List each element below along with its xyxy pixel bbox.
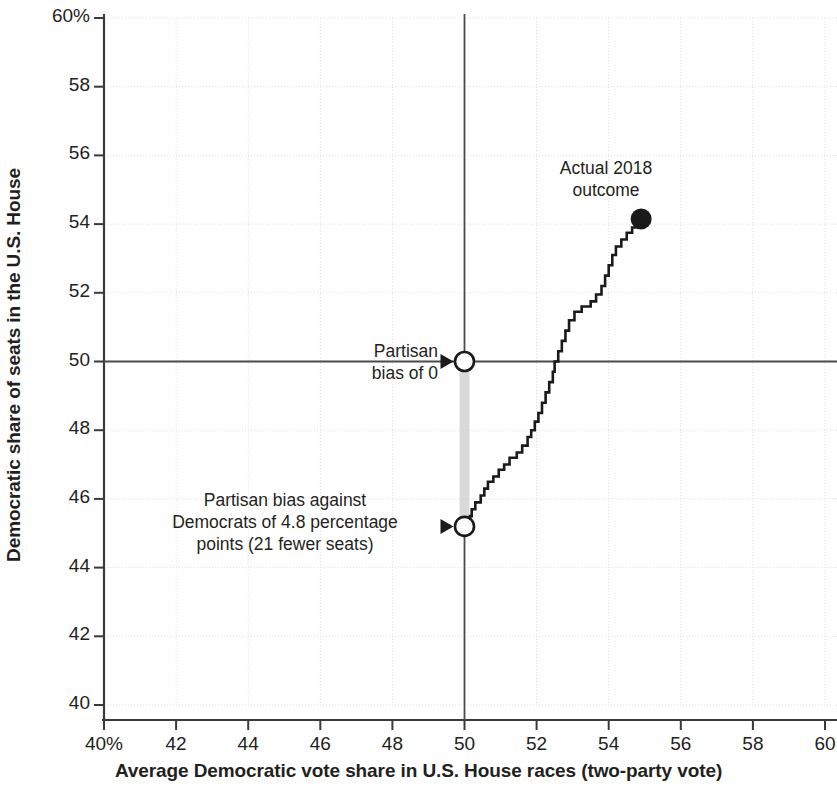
y-tick-label: 40 [28,692,90,714]
x-tick-label: 42 [141,733,211,755]
x-tick-label: 48 [357,733,427,755]
partisan-bias-band [460,362,470,527]
y-tick-label: 42 [28,623,90,645]
y-tick-label: 46 [28,486,90,508]
partisan-bias-band [460,362,470,527]
annotation-bias0-line-2: bias of 0 [258,363,438,385]
x-tick-label: 58 [718,733,788,755]
y-axis-title-text: Democratic share of seats in the U.S. Ho… [3,168,25,562]
pointer-arrow-bias-zero [441,354,454,369]
y-tick-label: 52 [28,280,90,302]
marker-actual-2018-outcome [631,208,652,229]
seats-votes-curve-figure: Democratic share of seats in the U.S. Ho… [0,0,837,791]
x-tick-label: 60 [790,733,837,755]
x-tick-label: 40% [69,733,139,755]
x-tick-label: 50 [430,733,500,755]
y-tick-label: 58 [28,74,90,96]
x-tick-label: 54 [574,733,644,755]
y-tick-label: 50 [28,349,90,371]
x-tick-label: 44 [213,733,283,755]
y-tick-label: 44 [28,555,90,577]
y-tick-label: 54 [28,211,90,233]
y-tick-label: 56 [28,142,90,164]
marker-partisan-bias-against-democrats [455,517,474,536]
y-axis-title: Democratic share of seats in the U.S. Ho… [0,0,28,730]
x-tick-label: 46 [285,733,355,755]
x-tick-label: 56 [646,733,716,755]
annotation-bias48-line-2: Democrats of 4.8 percentage [130,512,440,534]
annotation-actual-2018-outcome: Actual 2018 outcome [516,158,696,202]
annotation-pointers [441,354,454,534]
annotation-bias48-line-3: points (21 fewer seats) [130,534,440,556]
annotation-actual-line-2: outcome [516,180,696,202]
annotation-bias48-line-1: Partisan bias against [130,490,440,512]
pointer-arrow-bias-against-democrats [441,519,454,534]
chart-plot-area [0,0,837,791]
annotation-partisan-bias-of-zero: Partisan bias of 0 [258,341,438,385]
curve-seats-votes-curve-step- [465,219,642,526]
y-tick-label: 48 [28,417,90,439]
annotation-actual-line-1: Actual 2018 [516,158,696,180]
annotation-bias0-line-1: Partisan [258,341,438,363]
seats-votes-curve [465,219,642,526]
marker-partisan-bias-zero [455,352,474,371]
x-tick-label: 52 [502,733,572,755]
annotation-partisan-bias-against-democrats: Partisan bias against Democrats of 4.8 p… [130,490,440,556]
x-axis-title: Average Democratic vote share in U.S. Ho… [0,760,837,782]
y-tick-label: 60% [28,5,90,27]
